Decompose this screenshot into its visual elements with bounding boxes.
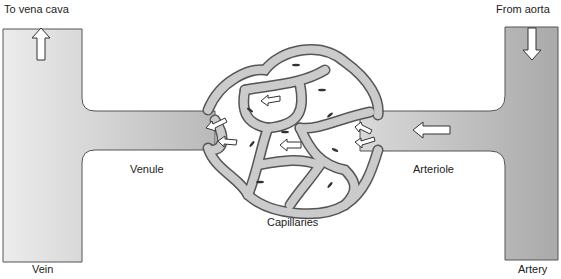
label-arteriole: Arteriole xyxy=(413,163,454,175)
label-venule: Venule xyxy=(130,163,164,175)
diagram-canvas xyxy=(0,0,561,279)
label-artery: Artery xyxy=(518,263,547,275)
capillary-bed xyxy=(208,50,378,214)
label-vein: Vein xyxy=(32,263,53,275)
vein-vessel xyxy=(3,29,215,262)
label-to-vena-cava: To vena cava xyxy=(4,3,69,15)
label-capillaries: Capillaries xyxy=(267,216,318,228)
artery-vessel xyxy=(360,27,558,260)
label-from-aorta: From aorta xyxy=(496,3,550,15)
